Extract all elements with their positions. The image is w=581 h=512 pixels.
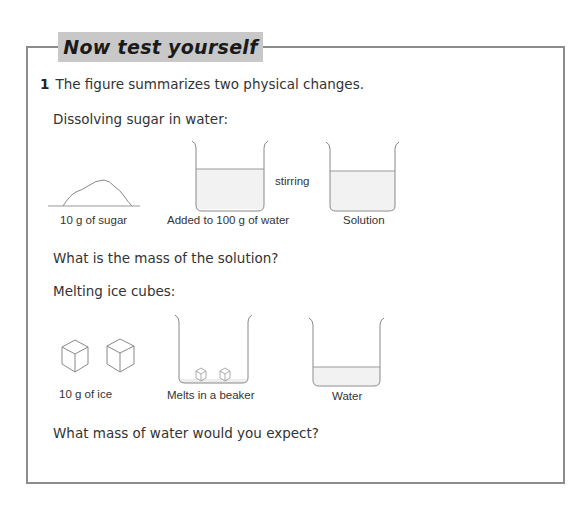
water-result-label: Water xyxy=(332,390,362,402)
ice-label: 10 g of ice xyxy=(59,388,112,400)
ice-cube-icon xyxy=(107,339,134,372)
part-a-question: What is the mass of the solution? xyxy=(53,250,278,266)
sugar-label: 10 g of sugar xyxy=(60,214,127,226)
beaker-meltwater-icon xyxy=(309,318,384,386)
sugar-pile-icon xyxy=(48,180,140,206)
solution-label: Solution xyxy=(343,214,385,226)
melts-label: Melts in a beaker xyxy=(167,389,255,401)
water-label: Added to 100 g of water xyxy=(167,214,289,226)
beaker-solution-icon xyxy=(326,142,399,211)
beaker-water-icon xyxy=(192,141,268,211)
part-b-question: What mass of water would you expect? xyxy=(53,425,319,441)
beaker-melting-ice-icon xyxy=(175,315,252,383)
part-b-heading: Melting ice cubes: xyxy=(53,283,175,299)
ice-cube-icon xyxy=(62,340,88,372)
stirring-label: stirring xyxy=(275,175,310,187)
